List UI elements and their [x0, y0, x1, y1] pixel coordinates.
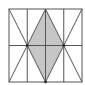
diagonal-line: [64, 9, 82, 46]
diagonal-line: [9, 46, 27, 83]
geometry-figure: [0, 0, 85, 85]
vertex-dot: [62, 44, 65, 47]
diagonal-line: [64, 46, 82, 83]
vertex-dot: [26, 44, 29, 47]
vertex-dot: [44, 81, 47, 84]
diagonal-line: [9, 9, 27, 46]
